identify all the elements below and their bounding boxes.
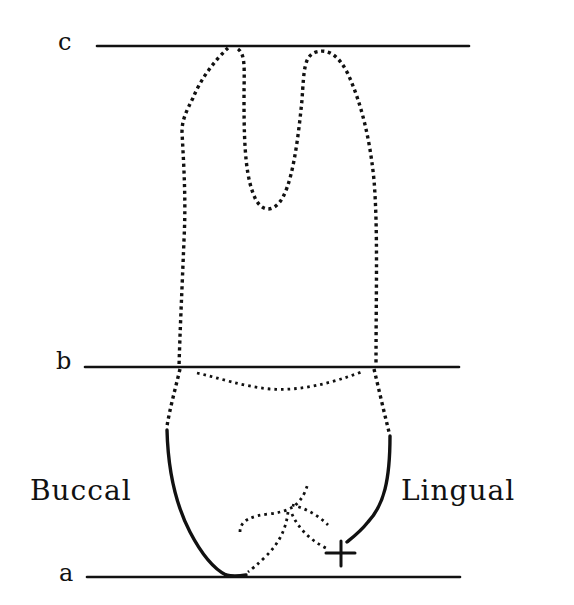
crown-outline-buccal: [167, 430, 226, 575]
cusp-ridge-down-left: [248, 512, 288, 572]
cej-contour: [197, 371, 364, 389]
crown-outline-left-dotted: [167, 369, 180, 426]
cusp-contour-left: [240, 483, 308, 532]
tooth-diagram: c b a Buccal Lingual: [0, 0, 574, 605]
cross-marker-icon: [326, 541, 355, 566]
cusp-ridge-down-right: [292, 514, 326, 548]
crown-outline-lingual: [347, 436, 390, 542]
root-outline-left: [179, 48, 228, 367]
tooth-outline-drawing: [0, 0, 574, 605]
crown-base: [226, 575, 246, 576]
crown-outline-right-dotted: [374, 369, 389, 432]
root-furcation-contour: [238, 49, 377, 367]
cusp-contour-right: [292, 505, 328, 525]
